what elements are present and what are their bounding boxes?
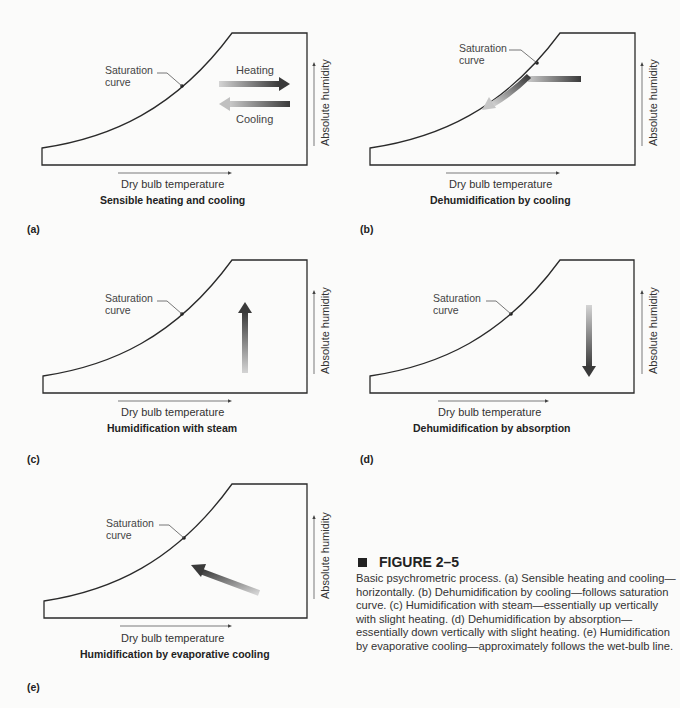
- dehumidification-down-arrow-icon: [582, 305, 596, 377]
- x-axis-label: Dry bulb temperature: [438, 406, 541, 418]
- x-axis-label: Dry bulb temperature: [121, 178, 224, 190]
- y-axis-label: Absolute humidity: [319, 512, 331, 599]
- figure-heading: FIGURE 2–5: [358, 554, 676, 570]
- x-axis-label: Dry bulb temperature: [121, 406, 224, 418]
- panel-a: Saturation curve Heating Cooling Dry bul…: [0, 0, 340, 240]
- dehumidification-arrow-icon: [482, 76, 581, 110]
- cooling-arrow-icon: [219, 97, 290, 111]
- figure-number: FIGURE 2–5: [379, 554, 459, 570]
- evaporative-cooling-arrow-icon: [191, 564, 259, 593]
- humidification-up-arrow-icon: [238, 302, 252, 373]
- panel-title: Humidification with steam: [107, 422, 237, 434]
- x-axis-label: Dry bulb temperature: [449, 178, 552, 190]
- panel-c: Saturation curve Dry bulb temperature Hu…: [0, 228, 340, 468]
- y-axis-label: Absolute humidity: [647, 59, 659, 146]
- saturation-curve-label: Saturation curve: [105, 292, 153, 316]
- square-bullet-icon: [358, 558, 367, 567]
- panel-title: Humidification by evaporative cooling: [80, 648, 270, 660]
- panel-letter: (e): [27, 681, 40, 693]
- panel-d: Saturation curve Dry bulb temperature De…: [328, 228, 680, 468]
- panel-b: Saturation curve Dry bulb temperature De…: [328, 0, 680, 240]
- y-axis-label: Absolute humidity: [647, 287, 659, 374]
- psychrometric-chart-e: [0, 452, 340, 708]
- panel-e: Saturation curve Dry bulb temperature Hu…: [0, 452, 340, 708]
- caption-text: Basic psychrometric process. (a) Sensibl…: [356, 572, 676, 654]
- panel-title: Sensible heating and cooling: [100, 194, 245, 206]
- panel-title: Dehumidification by absorption: [413, 422, 571, 434]
- saturation-curve-label: Saturation curve: [459, 42, 507, 66]
- panel-letter: (d): [360, 453, 373, 465]
- saturation-curve-label: Saturation curve: [105, 64, 153, 88]
- cooling-label: Cooling: [236, 113, 273, 125]
- saturation-curve-label: Saturation curve: [433, 292, 481, 316]
- figure-caption: FIGURE 2–5 Basic psychrometric process. …: [356, 554, 676, 654]
- x-axis-label: Dry bulb temperature: [121, 632, 224, 644]
- heating-arrow-icon: [219, 77, 290, 91]
- saturation-curve-label: Saturation curve: [106, 517, 154, 541]
- heating-label: Heating: [236, 64, 274, 76]
- panel-title: Dehumidification by cooling: [430, 194, 571, 206]
